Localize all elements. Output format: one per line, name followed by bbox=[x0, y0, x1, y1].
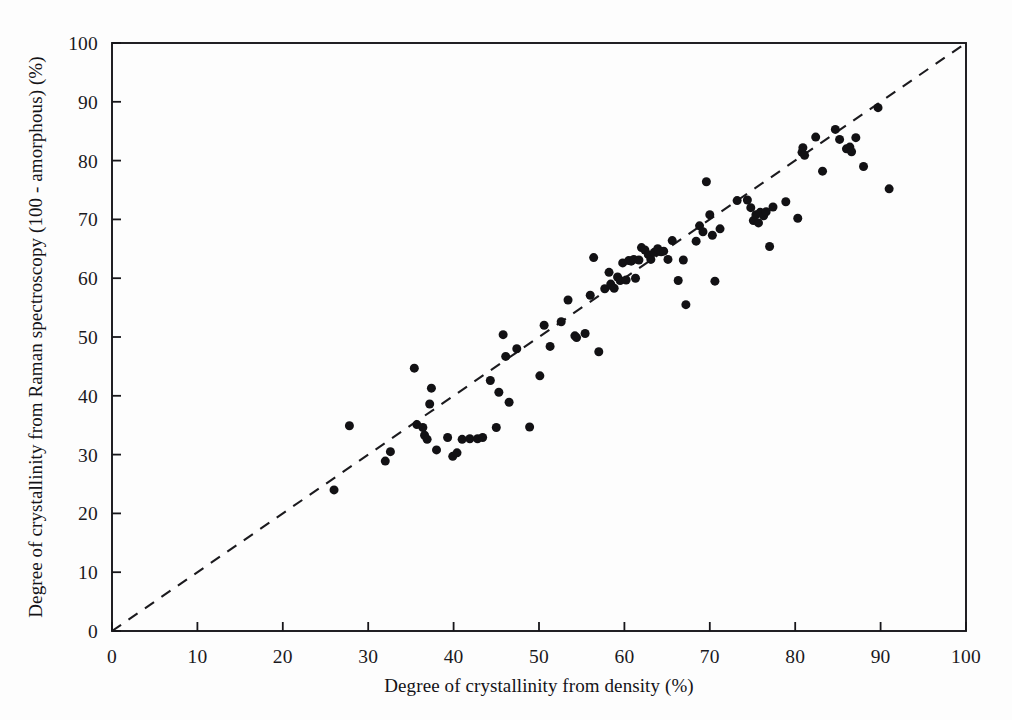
data-point bbox=[443, 433, 452, 442]
y-tick-label: 100 bbox=[68, 33, 98, 54]
x-tick-label: 10 bbox=[187, 646, 207, 667]
x-tick-label: 20 bbox=[273, 646, 293, 667]
data-point bbox=[859, 162, 868, 171]
x-tick-label: 90 bbox=[871, 646, 891, 667]
data-point bbox=[610, 284, 619, 293]
scatter-chart-figure: 0102030405060708090100 01020304050607080… bbox=[0, 0, 1012, 720]
data-point bbox=[330, 485, 339, 494]
x-tick-label: 70 bbox=[700, 646, 720, 667]
x-axis-tick-labels: 0102030405060708090100 bbox=[107, 646, 981, 667]
x-tick-label: 60 bbox=[614, 646, 634, 667]
data-point bbox=[847, 147, 856, 156]
data-point bbox=[668, 236, 677, 245]
data-point bbox=[540, 321, 549, 330]
data-point bbox=[716, 224, 725, 233]
data-point bbox=[427, 384, 436, 393]
x-tick-label: 0 bbox=[107, 646, 117, 667]
data-point bbox=[581, 329, 590, 338]
data-point bbox=[818, 167, 827, 176]
data-point bbox=[557, 317, 566, 326]
data-point bbox=[674, 276, 683, 285]
data-point bbox=[702, 177, 711, 186]
y-tick-label: 0 bbox=[88, 621, 98, 642]
data-point bbox=[478, 433, 487, 442]
data-point bbox=[586, 291, 595, 300]
x-axis-title: Degree of crystallinity from density (%) bbox=[384, 675, 693, 697]
data-point bbox=[811, 133, 820, 142]
data-point bbox=[692, 237, 701, 246]
data-point bbox=[525, 422, 534, 431]
data-point bbox=[765, 242, 774, 251]
y-tick-label: 30 bbox=[78, 445, 98, 466]
data-point bbox=[885, 184, 894, 193]
data-point bbox=[605, 268, 614, 277]
data-point bbox=[486, 376, 495, 385]
data-point bbox=[501, 352, 510, 361]
y-tick-label: 40 bbox=[78, 386, 98, 407]
data-point bbox=[432, 445, 441, 454]
y-tick-label: 80 bbox=[78, 151, 98, 172]
data-point bbox=[831, 125, 840, 134]
y-axis-ticks bbox=[112, 43, 121, 631]
data-point bbox=[535, 371, 544, 380]
x-tick-label: 100 bbox=[951, 646, 981, 667]
data-point bbox=[874, 103, 883, 112]
y-tick-label: 90 bbox=[78, 92, 98, 113]
data-point bbox=[793, 214, 802, 223]
data-point bbox=[708, 231, 717, 240]
y-axis-tick-labels: 0102030405060708090100 bbox=[68, 33, 98, 642]
data-point bbox=[458, 435, 467, 444]
y-axis-title: Degree of crystallinity from Raman spect… bbox=[25, 56, 47, 617]
y-tick-label: 60 bbox=[78, 268, 98, 289]
data-point bbox=[798, 143, 807, 152]
data-point bbox=[631, 274, 640, 283]
x-axis-ticks bbox=[112, 622, 966, 631]
data-point bbox=[698, 227, 707, 236]
data-point bbox=[572, 333, 581, 342]
data-point bbox=[710, 277, 719, 286]
y-tick-label: 70 bbox=[78, 209, 98, 230]
data-point bbox=[465, 434, 474, 443]
data-point bbox=[381, 457, 390, 466]
data-point bbox=[781, 197, 790, 206]
data-point bbox=[345, 421, 354, 430]
x-tick-label: 30 bbox=[358, 646, 378, 667]
data-point bbox=[589, 253, 598, 262]
data-point bbox=[681, 300, 690, 309]
y-tick-label: 50 bbox=[78, 327, 98, 348]
data-point bbox=[453, 448, 462, 457]
data-point bbox=[492, 423, 501, 432]
data-point bbox=[733, 196, 742, 205]
x-tick-label: 80 bbox=[785, 646, 805, 667]
data-point bbox=[423, 435, 432, 444]
x-tick-label: 50 bbox=[529, 646, 549, 667]
data-point bbox=[851, 133, 860, 142]
data-point bbox=[705, 210, 714, 219]
data-point bbox=[505, 398, 514, 407]
data-points bbox=[330, 103, 894, 494]
data-point bbox=[564, 295, 573, 304]
data-point bbox=[410, 364, 419, 373]
data-point bbox=[663, 255, 672, 264]
data-point bbox=[418, 423, 427, 432]
data-point bbox=[622, 275, 631, 284]
data-point bbox=[835, 135, 844, 144]
data-point bbox=[546, 342, 555, 351]
data-point bbox=[800, 151, 809, 160]
data-point bbox=[594, 347, 603, 356]
x-tick-label: 40 bbox=[444, 646, 464, 667]
data-point bbox=[768, 203, 777, 212]
data-point bbox=[494, 388, 503, 397]
data-point bbox=[679, 255, 688, 264]
y-tick-label: 20 bbox=[78, 503, 98, 524]
y-tick-label: 10 bbox=[78, 562, 98, 583]
data-point bbox=[386, 447, 395, 456]
data-point bbox=[743, 195, 752, 204]
data-point bbox=[634, 255, 643, 264]
data-point bbox=[425, 400, 434, 409]
data-point bbox=[659, 247, 668, 256]
chart-canvas: 0102030405060708090100 01020304050607080… bbox=[0, 0, 1012, 720]
data-point bbox=[512, 344, 521, 353]
data-point bbox=[499, 330, 508, 339]
